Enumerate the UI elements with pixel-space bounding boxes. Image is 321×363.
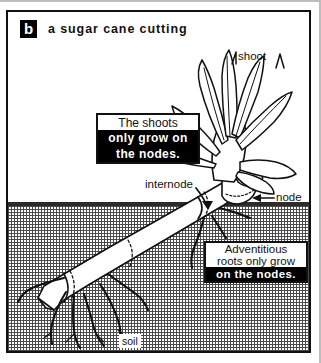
root-8 (212, 216, 226, 238)
label-internode: internode (145, 178, 193, 190)
label-shoot: shoot (238, 50, 266, 62)
figure-panel: b a sugar cane cutting shoot internode n… (0, 0, 321, 363)
root-7 (191, 218, 204, 268)
callout-roots-line2: roots only grow (206, 255, 306, 267)
root-6 (108, 274, 148, 310)
callout-shoots-line1: The shoots (98, 115, 198, 130)
root-9 (220, 208, 250, 218)
label-soil: soil (119, 334, 141, 348)
page-title: a sugar cane cutting (48, 22, 188, 36)
shoot-leader-left (232, 52, 236, 64)
root-hair-b (66, 334, 74, 342)
callout-shoots-line2: only grow on (98, 130, 198, 146)
label-node: node (276, 191, 302, 203)
panel-letter-badge: b (20, 20, 37, 38)
page-edge-top (0, 0, 321, 2)
panel-header: b a sugar cane cutting (20, 20, 188, 38)
callout-shoots: The shoots only grow on the nodes. (96, 113, 200, 164)
shoot-leader-right (276, 54, 284, 68)
callout-shoots-line3: the nodes. (98, 146, 198, 162)
root-5 (100, 284, 121, 344)
root-3 (73, 296, 80, 348)
callout-roots-line3: on the nodes. (206, 267, 306, 281)
diagram-frame: b a sugar cane cutting shoot internode n… (6, 10, 311, 353)
callout-roots: Adventitious roots only grow on the node… (204, 241, 308, 283)
callout-roots-line1: Adventitious (206, 243, 306, 255)
